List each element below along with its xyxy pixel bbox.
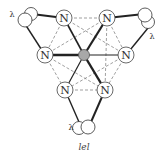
nitrogen-atom: N bbox=[37, 47, 53, 63]
metal-center-atom bbox=[79, 50, 90, 61]
atom-label: N bbox=[59, 12, 69, 25]
chelate-backbones bbox=[25, 14, 148, 122]
chelate-label: λ bbox=[149, 32, 154, 41]
chelate-label: λ bbox=[9, 10, 14, 19]
atom-label: N bbox=[40, 49, 50, 62]
lel-conformation-diagram: N N N N N N λ λ λ lel bbox=[0, 0, 161, 155]
nitrogen-atom: N bbox=[56, 10, 72, 26]
atom-label: N bbox=[60, 84, 70, 97]
diagram-caption: lel bbox=[78, 142, 89, 152]
atom-label: N bbox=[121, 49, 131, 62]
carbon-atoms bbox=[18, 8, 155, 135]
nitrogen-atom: N bbox=[57, 82, 73, 98]
nitrogen-atom: N bbox=[99, 10, 115, 26]
atom-label: N bbox=[100, 84, 110, 97]
nitrogen-atom: N bbox=[97, 82, 113, 98]
nitrogen-atom: N bbox=[118, 47, 134, 63]
chelate-label: λ bbox=[68, 123, 73, 132]
atom-label: N bbox=[102, 12, 112, 25]
